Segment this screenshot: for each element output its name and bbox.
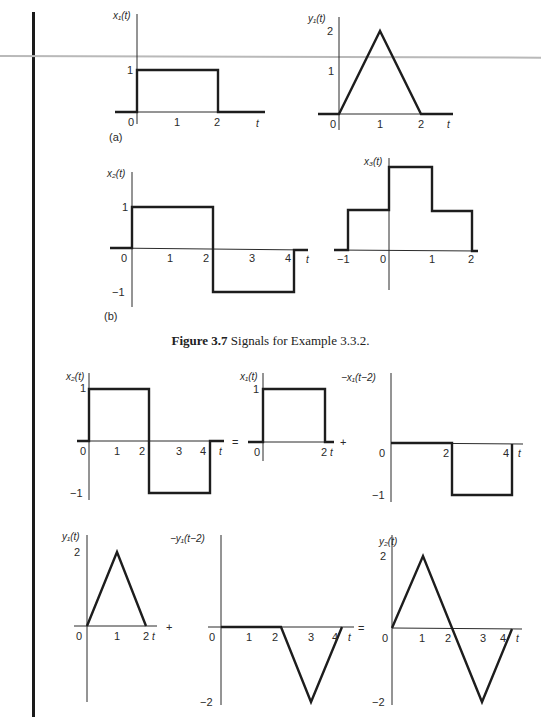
ytick-1: 1 <box>253 383 259 395</box>
equals-sign: = <box>232 436 238 448</box>
xtick-1: 1 <box>377 118 383 130</box>
signal-x1 <box>248 389 334 442</box>
xtick-2: 2 <box>445 632 451 644</box>
ytick-neg1: −1 <box>372 489 385 501</box>
ytick-neg2: −2 <box>200 696 213 708</box>
t-label: t <box>447 119 451 130</box>
ytick-2: 2 <box>380 550 386 562</box>
plot-title: y₁(t) <box>307 13 326 24</box>
xtick-2: 2 <box>468 253 474 265</box>
signal-x3 <box>334 167 478 251</box>
plot-title: x₃(t) <box>363 156 382 167</box>
xtick-4: 4 <box>332 631 338 643</box>
xtick-4: 4 <box>200 445 206 457</box>
plot-y1: y₁(t) 2 1 0 1 2 t <box>307 13 453 130</box>
xtick-2: 2 <box>143 630 149 642</box>
plot-neg-x1-shift: −x₁(t−2) 0 2 4 t −1 <box>341 372 523 502</box>
plot-x2: x₂(t) 1 −1 0 1 2 3 4 t (b) <box>104 168 310 322</box>
ytick-1: 1 <box>122 201 128 213</box>
plot-x1: x₁(t) 1 0 1 2 t (a) <box>109 10 265 143</box>
xtick-0: 0 <box>379 447 385 459</box>
plus-sign: + <box>166 621 172 633</box>
t-label: t <box>306 254 310 265</box>
plot-y2: y₂(t) 2 0 1 2 3 4 t −2 <box>372 535 522 708</box>
signal-y1 <box>318 31 453 114</box>
xtick-0: 0 <box>382 632 388 644</box>
xtick-4: 4 <box>500 632 506 644</box>
figure-caption: Figure 3.7 Signals for Example 3.3.2. <box>0 333 541 349</box>
plot-title: x₂(t) <box>106 168 125 179</box>
xtick-1: 1 <box>246 631 252 643</box>
xtick-2: 2 <box>443 447 449 459</box>
xtick-0: 0 <box>80 445 86 457</box>
plot-title: x₁(t) <box>112 10 131 21</box>
signal-x1 <box>115 70 265 112</box>
t-label: t <box>348 632 352 643</box>
xtick-1: 1 <box>419 632 425 644</box>
xtick-0: 0 <box>209 631 215 643</box>
plus-sign: + <box>340 436 346 448</box>
ytick-2: 2 <box>327 25 333 37</box>
signal-neg-x1-shift <box>391 443 512 495</box>
xtick-2: 2 <box>139 445 145 457</box>
plot-title: x₁(t) <box>239 371 258 382</box>
t-label: t <box>152 631 156 642</box>
xtick-0: 0 <box>76 630 82 642</box>
t-axis <box>110 248 308 250</box>
ytick-neg1: −1 <box>70 487 83 499</box>
figure-3-7: x₁(t) 1 0 1 2 t (a) y₁(t) 2 1 0 1 2 t x₂… <box>0 0 541 717</box>
signal-y1 <box>87 552 146 626</box>
t-label: t <box>219 446 223 457</box>
ytick-neg1: −1 <box>112 286 125 298</box>
figure-number: Figure 3.7 <box>172 333 228 348</box>
plot-title: −y₁(t−2) <box>170 533 205 544</box>
t-label: t <box>330 447 334 458</box>
part-label-a: (a) <box>109 131 122 143</box>
xtick-0: 0 <box>121 252 127 264</box>
xtick-0: 0 <box>330 118 336 130</box>
xtick-0: 0 <box>254 446 260 458</box>
xtick-3: 3 <box>249 252 255 264</box>
caption-text: Signals for Example 3.3.2. <box>231 333 370 348</box>
plot-title: y₁(t) <box>61 531 80 542</box>
xtick-1: 1 <box>167 252 173 264</box>
xtick-4: 4 <box>503 447 509 459</box>
plot-title: y₂(t) <box>378 536 397 547</box>
t-axis <box>334 250 478 251</box>
xtick-3: 3 <box>176 445 182 457</box>
part-label-b: (b) <box>104 310 117 322</box>
plot-x2-decomp: x₂(t) 1 −1 0 1 2 3 4 t <box>65 371 224 500</box>
xtick-2: 2 <box>272 631 278 643</box>
ytick-1: 1 <box>127 64 133 76</box>
plot-title: −x₁(t−2) <box>341 372 376 383</box>
xtick-2: 2 <box>418 118 424 130</box>
plot-y1-decomp: y₁(t) 2 0 1 2 t <box>61 531 157 702</box>
xtick-1: 1 <box>114 630 120 642</box>
xtick-1: 1 <box>429 253 435 265</box>
xtick-3: 3 <box>480 632 486 644</box>
t-axis <box>392 628 522 629</box>
equals-sign: = <box>358 622 364 634</box>
xtick-4: 4 <box>285 252 291 264</box>
t-label: t <box>518 448 522 459</box>
xtick-1: 1 <box>114 445 120 457</box>
signal-neg-y1-shift <box>221 627 342 702</box>
ytick-1: 1 <box>328 65 334 77</box>
xtick-2: 2 <box>203 252 209 264</box>
plot-neg-y1-shift: −y₁(t−2) 0 1 2 3 4 t −2 <box>170 533 354 708</box>
xtick-0: 0 <box>128 116 134 128</box>
ytick-1: 1 <box>80 382 86 394</box>
xtick-2: 2 <box>321 446 327 458</box>
xtick-neg1: −1 <box>337 253 350 265</box>
t-label: t <box>516 633 520 644</box>
t-label: t <box>256 118 260 129</box>
ytick-2: 2 <box>74 546 80 558</box>
ytick-neg2: −2 <box>372 696 385 708</box>
xtick-2: 2 <box>214 116 220 128</box>
xtick-0: 0 <box>380 253 386 265</box>
xtick-1: 1 <box>174 116 180 128</box>
plot-x3: x₃(t) −1 0 1 2 <box>334 156 478 290</box>
plot-title: x₂(t) <box>65 371 84 382</box>
xtick-3: 3 <box>308 631 314 643</box>
plot-x1-decomp: x₁(t) 1 0 2 t <box>239 371 334 461</box>
